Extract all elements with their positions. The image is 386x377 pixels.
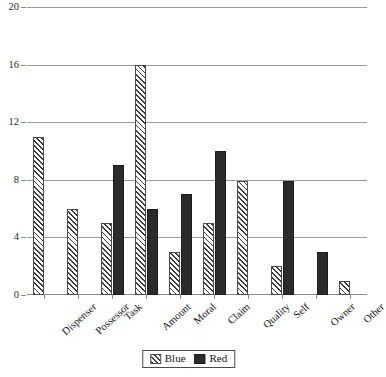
x-tick-label: Claim <box>226 301 252 326</box>
x-tick-label: Amount <box>160 301 193 332</box>
solid-swatch-icon <box>195 354 206 364</box>
legend-label: Blue <box>165 353 186 364</box>
bar-red-claim <box>215 151 226 295</box>
x-tick <box>180 295 181 299</box>
x-tick <box>146 295 147 299</box>
bar-red-self <box>283 181 294 295</box>
y-tick-mark <box>21 65 26 66</box>
y-tick-mark <box>21 295 26 296</box>
bar-red-task <box>113 165 124 295</box>
x-tick-label: Self <box>291 301 311 320</box>
legend: BlueRed <box>142 350 236 368</box>
bar-red-moral <box>181 194 192 295</box>
x-tick <box>282 295 283 299</box>
y-tick: 12 <box>0 117 27 128</box>
legend-entry-red: Red <box>195 353 228 364</box>
y-tick: 8 <box>0 175 27 186</box>
bar-blue-other <box>339 281 350 295</box>
bar-blue-claim <box>203 223 214 295</box>
x-tick <box>350 295 351 299</box>
legend-entry-blue: Blue <box>150 353 186 364</box>
y-tick: 20 <box>0 2 27 13</box>
bar-red-owner <box>317 252 328 295</box>
plot-area <box>27 7 367 295</box>
x-tick-label: Dispenser <box>60 301 99 337</box>
bar-blue-quality <box>237 181 248 295</box>
x-tick <box>316 295 317 299</box>
x-tick-label: Owner <box>328 301 357 328</box>
y-tick: 4 <box>0 232 27 243</box>
y-tick: 16 <box>0 60 27 71</box>
y-tick-mark <box>21 180 26 181</box>
x-tick <box>214 295 215 299</box>
y-tick-mark <box>21 237 26 238</box>
y-tick-label: 20 <box>0 2 19 13</box>
y-tick-label: 8 <box>0 175 19 186</box>
x-tick-label: Moral <box>192 301 218 326</box>
y-tick-mark <box>21 122 26 123</box>
bar-blue-possessor <box>67 209 78 295</box>
x-tick-label: Quality <box>261 301 292 330</box>
hatched-swatch-icon <box>150 354 161 364</box>
bar-blue-task <box>101 223 112 295</box>
legend-label: Red <box>210 353 228 364</box>
y-tick-label: 0 <box>0 290 19 301</box>
y-tick-label: 12 <box>0 117 19 128</box>
bar-blue-dispenser <box>33 137 44 295</box>
y-tick: 0 <box>0 290 27 301</box>
bar-blue-moral <box>169 252 180 295</box>
bar-red-amount <box>147 209 158 295</box>
x-tick <box>78 295 79 299</box>
y-tick-label: 4 <box>0 232 19 243</box>
x-tick-label: Other <box>361 301 386 325</box>
bar-blue-amount <box>135 65 146 295</box>
bar-blue-self <box>271 266 282 295</box>
y-tick-label: 16 <box>0 60 19 71</box>
y-tick-mark <box>21 7 26 8</box>
x-tick <box>112 295 113 299</box>
x-tick <box>44 295 45 299</box>
x-tick <box>248 295 249 299</box>
